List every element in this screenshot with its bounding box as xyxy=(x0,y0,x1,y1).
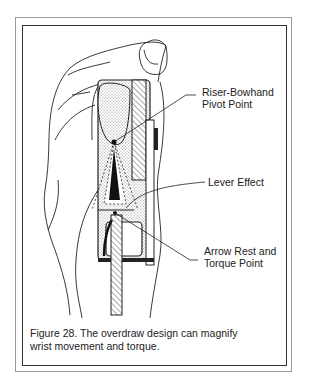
figure-caption: Figure 28. The overdraw design can magni… xyxy=(30,327,282,353)
arrow-shaft xyxy=(104,215,122,315)
caption-line1: Figure 28. The overdraw design can magni… xyxy=(30,327,282,340)
rest-label-line1: Arrow Rest and xyxy=(204,245,276,257)
rest-label-line2: Torque Point xyxy=(204,257,276,269)
pivot-point-label: Riser-Bowhand Pivot Point xyxy=(202,86,274,110)
lever-effect-label: Lever Effect xyxy=(208,176,264,188)
arrow-rest-label: Arrow Rest and Torque Point xyxy=(204,245,276,269)
pivot-label-line1: Riser-Bowhand xyxy=(202,86,274,98)
caption-line2: wrist movement and torque. xyxy=(30,340,282,353)
pivot-label-line2: Pivot Point xyxy=(202,98,274,110)
